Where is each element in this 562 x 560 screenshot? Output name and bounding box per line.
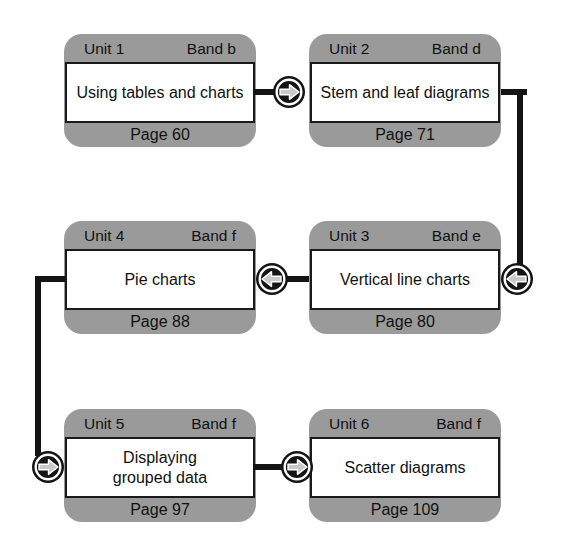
unit-card-2: Unit 2 Band d Stem and leaf diagrams Pag…: [309, 34, 501, 147]
unit-title: Pie charts: [65, 249, 255, 310]
unit-band-label: Band d: [432, 40, 481, 58]
unit-page-label: Page 60: [64, 123, 256, 147]
connector-unit3-unit4: [285, 276, 309, 282]
connector-unit5-unit6: [253, 464, 283, 470]
unit-title: Scatter diagrams: [310, 437, 500, 498]
arrow-left-icon: [501, 263, 533, 295]
arrow-right-icon: [273, 76, 305, 108]
unit-card-header: Unit 3 Band e: [309, 221, 501, 249]
unit-number-label: Unit 6: [329, 415, 370, 433]
unit-band-label: Band b: [187, 40, 236, 58]
unit-number-label: Unit 3: [329, 227, 370, 245]
unit-title: Vertical line charts: [310, 249, 500, 310]
unit-card-3: Unit 3 Band e Vertical line charts Page …: [309, 221, 501, 334]
unit-page-label: Page 109: [309, 498, 501, 522]
connector-unit4-unit5-vertical: [35, 276, 41, 456]
unit-page-label: Page 88: [64, 310, 256, 334]
unit-number-label: Unit 2: [329, 40, 370, 58]
flowchart-canvas: Unit 1 Band b Using tables and charts Pa…: [0, 0, 562, 560]
arrow-right-icon: [32, 451, 64, 483]
unit-card-header: Unit 4 Band f: [64, 221, 256, 249]
unit-card-header: Unit 5 Band f: [64, 409, 256, 437]
connector-unit2-unit3-horizontal: [501, 89, 527, 95]
unit-band-label: Band e: [432, 227, 481, 245]
arrow-left-icon: [256, 263, 288, 295]
unit-page-label: Page 97: [64, 498, 256, 522]
unit-card-header: Unit 6 Band f: [309, 409, 501, 437]
unit-number-label: Unit 5: [84, 415, 125, 433]
unit-card-6: Unit 6 Band f Scatter diagrams Page 109: [309, 409, 501, 522]
unit-band-label: Band f: [436, 415, 481, 433]
unit-band-label: Band f: [191, 227, 236, 245]
unit-card-5: Unit 5 Band f Displaying grouped data Pa…: [64, 409, 256, 522]
unit-band-label: Band f: [191, 415, 236, 433]
unit-card-header: Unit 2 Band d: [309, 34, 501, 62]
unit-title: Displaying grouped data: [65, 437, 255, 498]
unit-card-4: Unit 4 Band f Pie charts Page 88: [64, 221, 256, 334]
connector-unit1-unit2: [253, 89, 275, 95]
unit-title: Using tables and charts: [65, 62, 255, 123]
unit-page-label: Page 71: [309, 123, 501, 147]
unit-number-label: Unit 1: [84, 40, 125, 58]
unit-page-label: Page 80: [309, 310, 501, 334]
unit-card-header: Unit 1 Band b: [64, 34, 256, 62]
unit-card-1: Unit 1 Band b Using tables and charts Pa…: [64, 34, 256, 147]
arrow-right-icon: [281, 451, 313, 483]
unit-number-label: Unit 4: [84, 227, 125, 245]
unit-title: Stem and leaf diagrams: [310, 62, 500, 123]
connector-unit2-unit3-vertical: [517, 89, 523, 269]
